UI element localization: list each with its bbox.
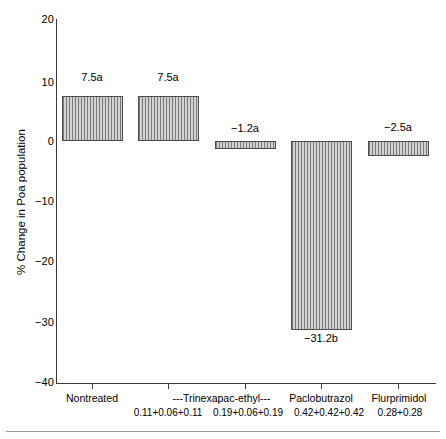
bar-value-label-trinexapac-high: −1.2a	[205, 123, 285, 134]
bar-chart: % Change in Poa population 20 10 0 −10 −…	[0, 0, 446, 439]
y-tick-label-20: 20	[20, 14, 54, 25]
bar-value-label-flurprimidol: −2.5a	[358, 122, 438, 133]
y-tick-20: 20	[12, 14, 54, 25]
x-category-label-nontreated: Nontreated	[47, 392, 137, 404]
footer-divider	[6, 431, 440, 432]
x-category-label-paclobutrazol: Paclobutrazol	[276, 392, 366, 404]
x-tick-5	[398, 384, 399, 389]
y-tick-label-10: 10	[20, 77, 54, 88]
x-axis-line	[56, 383, 436, 384]
y-tick-label-neg10: −10	[20, 196, 54, 207]
y-tick-neg40: −40	[12, 377, 54, 388]
x-tick-1	[92, 384, 93, 389]
y-tick-label-neg40: −40	[20, 377, 54, 388]
x-rate-label-trinexapac-low: 0.11+0.06+0.11	[123, 407, 213, 419]
y-tick-neg10: −10	[12, 196, 54, 207]
bar-trinexapac-low	[138, 96, 199, 141]
y-tick-label-neg30: −30	[20, 317, 54, 328]
x-rate-label-trinexapac-high: 0.19+0.06+0.19	[203, 407, 293, 419]
y-tick-label-0: 0	[20, 136, 54, 147]
y-tick-neg20: −20	[12, 256, 54, 267]
bar-paclobutrazol	[291, 141, 352, 330]
x-category-label-trinexapac-ethyl: ---Trinexapac-ethyl---	[146, 392, 297, 404]
x-tick-3	[245, 384, 246, 389]
bar-trinexapac-high	[215, 141, 276, 149]
bar-value-label-paclobutrazol: −31.2b	[281, 333, 361, 344]
y-tick-neg30: −30	[12, 317, 54, 328]
y-tick-10: 10	[12, 77, 54, 88]
x-tick-2	[168, 384, 169, 389]
x-category-label-flurprimidol: Flurprimidol	[358, 392, 440, 404]
bar-value-label-trinexapac-low: 7.5a	[128, 72, 208, 83]
y-tick-label-neg20: −20	[20, 256, 54, 267]
bar-flurprimidol	[368, 141, 429, 156]
x-rate-label-paclobutrazol: 0.42+0.42+0.42	[284, 407, 374, 419]
x-rate-label-flurprimidol: 0.28+0.28	[362, 407, 438, 419]
bar-nontreated	[62, 96, 123, 141]
y-tick-0: 0	[12, 136, 54, 147]
x-tick-4	[321, 384, 322, 389]
bar-value-label-nontreated: 7.5a	[52, 72, 132, 83]
